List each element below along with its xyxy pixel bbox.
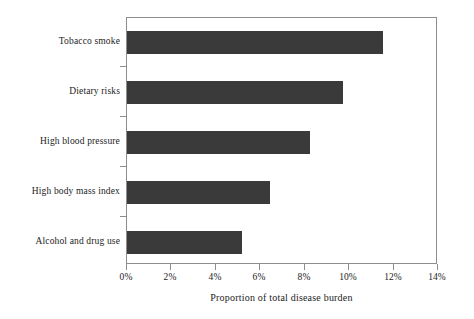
x-axis-tick-7: [437, 264, 438, 270]
bar-chart-figure: Tobacco smoke Dietary risks High blood p…: [0, 0, 474, 319]
y-axis-label-4: Alcohol and drug use: [0, 236, 120, 246]
plot-area: [126, 17, 437, 264]
bar-high-body-mass-index: [127, 181, 270, 204]
x-axis-tick-label-0: 0%: [106, 272, 146, 282]
bar-high-blood-pressure: [127, 131, 310, 154]
x-axis-tick-1: [170, 264, 171, 270]
x-axis-tick-3: [259, 264, 260, 270]
bar-alcohol-and-drug-use: [127, 231, 242, 254]
x-axis-title: Proportion of total disease burden: [126, 292, 437, 303]
x-axis-tick-label-4: 8%: [284, 272, 324, 282]
y-axis-label-3: High body mass index: [0, 186, 120, 196]
bar-dietary-risks: [127, 81, 343, 104]
y-axis-label-1: Dietary risks: [0, 86, 120, 96]
x-axis-tick-label-3: 6%: [239, 272, 279, 282]
x-axis-tick-label-5: 10%: [328, 272, 368, 282]
x-axis-tick-4: [304, 264, 305, 270]
y-axis-label-2: High blood pressure: [0, 136, 120, 146]
x-axis-tick-2: [215, 264, 216, 270]
x-axis-tick-label-6: 12%: [373, 272, 413, 282]
bar-tobacco-smoke: [127, 31, 383, 54]
x-axis-tick-6: [393, 264, 394, 270]
x-axis-tick-label-1: 2%: [150, 272, 190, 282]
y-axis-label-0: Tobacco smoke: [0, 36, 120, 46]
x-axis-tick-5: [348, 264, 349, 270]
x-axis-tick-0: [126, 264, 127, 270]
x-axis-tick-label-2: 4%: [195, 272, 235, 282]
x-axis-tick-label-7: 14%: [417, 272, 457, 282]
